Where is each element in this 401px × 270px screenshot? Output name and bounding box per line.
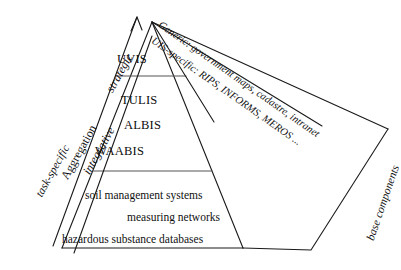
tier-item-hazardous-substance-databases: hazardous substance databases (62, 234, 203, 246)
tier-item-measuring-networks: measuring networks (127, 212, 220, 224)
tier-item-albis: ALBIS (124, 119, 161, 132)
tier-item-soil-management-systems: soil management systems (85, 190, 203, 202)
tier-item-tulis: TULIS (121, 94, 157, 107)
